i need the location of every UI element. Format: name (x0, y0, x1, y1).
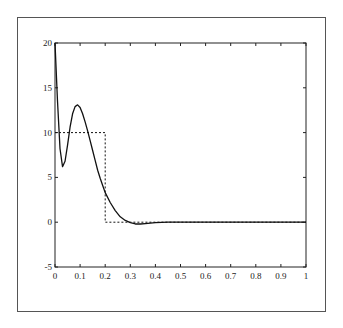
x-tick-label: 0.2 (100, 271, 111, 281)
x-tick-label: 1 (304, 271, 309, 281)
x-tick-label: 0.9 (275, 271, 287, 281)
axis-ticks: 00.10.20.30.40.50.60.70.80.91-505101520 (43, 38, 308, 281)
x-tick-label: 0.3 (125, 271, 137, 281)
data-series (55, 43, 306, 224)
solid-series (55, 43, 306, 224)
x-tick-label: 0.4 (150, 271, 162, 281)
y-tick-label: 15 (43, 83, 53, 93)
x-tick-label: 0.6 (200, 271, 212, 281)
dashed-series (55, 133, 306, 223)
x-tick-label: 0.1 (74, 271, 85, 281)
y-tick-label: -5 (45, 262, 53, 272)
x-tick-label: 0.5 (175, 271, 187, 281)
plot-axes (55, 43, 306, 267)
x-tick-label: 0 (53, 271, 58, 281)
line-chart: 00.10.20.30.40.50.60.70.80.91-505101520 (0, 0, 343, 328)
x-tick-label: 0.8 (250, 271, 262, 281)
y-tick-label: 5 (48, 172, 53, 182)
y-tick-label: 20 (43, 38, 53, 48)
y-tick-label: 10 (43, 128, 53, 138)
plot-box (55, 43, 306, 267)
x-tick-label: 0.7 (225, 271, 237, 281)
y-tick-label: 0 (48, 217, 53, 227)
